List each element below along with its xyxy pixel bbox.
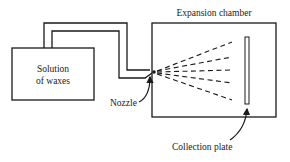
collection-plate-label: Collection plate — [172, 142, 232, 152]
nozzle-tip — [152, 70, 156, 74]
solution-label-line2: of waxes — [36, 76, 70, 86]
wax-expansion-diagram: Solution of waxes Expansion chamber Nozz… — [0, 0, 290, 162]
outer-pipe — [44, 23, 150, 70]
chamber-label: Expansion chamber — [176, 8, 252, 18]
spray-pattern — [157, 42, 232, 100]
collection-plate — [245, 37, 249, 104]
collection-plate-arrow — [230, 109, 247, 140]
solution-box — [12, 48, 94, 100]
expansion-chamber — [152, 23, 276, 117]
nozzle-arrow — [139, 77, 150, 102]
solution-label-line1: Solution — [37, 64, 69, 74]
nozzle-label: Nozzle — [110, 98, 137, 108]
